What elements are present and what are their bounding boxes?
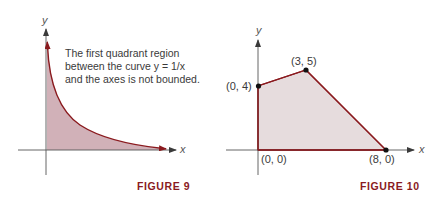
feasible-region bbox=[258, 70, 386, 150]
fig9-note-line-3: and the axes is not bounded. bbox=[65, 73, 200, 85]
fig9-note-line-2: between the curve y = 1/x bbox=[65, 60, 186, 72]
figure-10: y x (0, 0) (0, 4) (3, 5) (8, 0) FIGURE 1… bbox=[226, 24, 425, 192]
vertex-dot-8-0 bbox=[383, 147, 388, 152]
fig9-caption: FIGURE 9 bbox=[137, 180, 190, 192]
figures-canvas: y x The first quadrant region between th… bbox=[0, 0, 445, 202]
vertex-dot-0-4 bbox=[256, 83, 261, 88]
vertex-label-0-4: (0, 4) bbox=[226, 80, 252, 92]
fig9-x-label: x bbox=[179, 143, 186, 155]
fig9-y-label: y bbox=[41, 14, 49, 26]
vertex-label-8-0: (8, 0) bbox=[369, 153, 395, 165]
vertex-label-0-0: (0, 0) bbox=[261, 153, 287, 165]
fig10-caption: FIGURE 10 bbox=[360, 180, 420, 192]
figure-9: y x The first quadrant region between th… bbox=[18, 14, 200, 192]
fig10-x-label: x bbox=[418, 143, 425, 155]
vertex-label-3-5: (3, 5) bbox=[291, 55, 317, 67]
fig9-note-line-1: The first quadrant region bbox=[65, 47, 180, 59]
vertex-dot-3-5 bbox=[303, 67, 308, 72]
curve-end-arrow-right bbox=[160, 148, 166, 149]
fig10-y-label: y bbox=[255, 24, 263, 36]
